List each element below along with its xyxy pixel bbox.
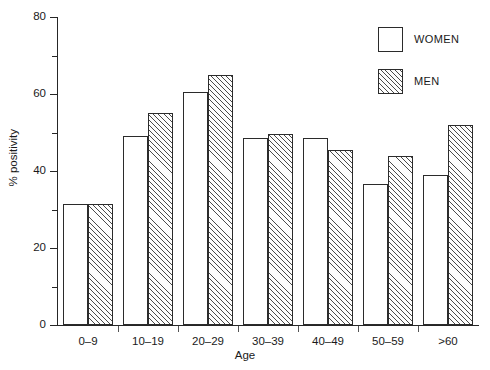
bar-men-4049: [328, 150, 353, 325]
bar-women-60: [423, 175, 448, 325]
x-tick-label: 30–39: [252, 336, 284, 348]
bar-women-5059: [363, 184, 388, 325]
y-tick-major: [50, 248, 57, 249]
bar-women-2029: [183, 92, 208, 325]
x-tick-separator: [358, 326, 359, 332]
legend-swatch-women-icon: [378, 27, 403, 52]
x-tick-label: >60: [438, 336, 458, 348]
y-axis-title: % positivity: [8, 98, 20, 218]
bar-men-2029: [208, 75, 233, 325]
bar-women-3039: [243, 138, 268, 325]
x-axis-line: [57, 325, 479, 326]
y-tick-label: 0: [40, 319, 46, 331]
bar-men-3039: [268, 134, 293, 325]
legend-swatch-men-icon: [378, 69, 403, 94]
x-tick-label: 40–49: [312, 336, 344, 348]
bar-men-5059: [388, 156, 413, 325]
bar-chart-figure: 020406080 0–910–1920–2930–3940–4950–59>6…: [0, 0, 490, 370]
bar-men-1019: [148, 113, 173, 325]
y-tick-label: 20: [33, 242, 46, 254]
x-axis-title: Age: [0, 350, 490, 362]
bar-women-09: [63, 204, 88, 325]
bar-women-1019: [123, 136, 148, 325]
x-tick-separator: [298, 326, 299, 332]
legend-label-women: WOMEN: [414, 34, 459, 45]
bar-men-60: [448, 125, 473, 325]
y-tick-major: [50, 17, 57, 18]
x-tick-separator: [178, 326, 179, 332]
bar-men-09: [88, 204, 113, 325]
x-tick-separator: [418, 326, 419, 332]
legend-entry-men: MEN: [378, 66, 459, 97]
legend-label-men: MEN: [414, 76, 440, 87]
chart-legend: WOMEN MEN: [378, 24, 459, 108]
x-tick-separator: [238, 326, 239, 332]
y-tick-major: [50, 325, 57, 326]
x-tick-label: 20–29: [192, 336, 224, 348]
bar-women-4049: [303, 138, 328, 325]
x-tick-label: 50–59: [372, 336, 404, 348]
x-tick-separator: [118, 326, 119, 332]
y-tick-label: 60: [33, 88, 46, 100]
x-tick-label: 0–9: [78, 336, 97, 348]
legend-entry-women: WOMEN: [378, 24, 459, 55]
y-tick-label: 40: [33, 165, 46, 177]
y-tick-major: [50, 171, 57, 172]
y-tick-label: 80: [33, 11, 46, 23]
x-tick-label: 10–19: [132, 336, 164, 348]
y-tick-major: [50, 94, 57, 95]
